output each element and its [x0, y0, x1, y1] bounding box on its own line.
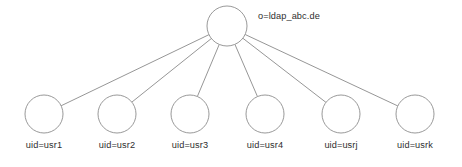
tree-edge [235, 44, 258, 96]
leaf-node-label: uid=usr2 [99, 140, 135, 150]
leaf-node-label: uid=usr4 [247, 140, 283, 150]
leaf-node-circle[interactable] [396, 95, 434, 133]
tree-edge [197, 44, 219, 96]
leaf-node-circle[interactable] [246, 95, 284, 133]
leaf-node-circle[interactable] [25, 95, 63, 133]
ldap-tree-diagram: o=ldap_abc.deuid=usr1uid=usr2uid=usr3uid… [0, 0, 462, 167]
root-node-circle[interactable] [207, 6, 247, 46]
root-node-label: o=ldap_abc.de [258, 11, 320, 21]
leaf-node-label: uid=usr3 [172, 140, 208, 150]
leaf-node-label: uid=usr1 [26, 140, 62, 150]
tree-edge [243, 38, 326, 102]
leaf-node-circle[interactable] [171, 95, 209, 133]
leaf-node-label: uid=usrj [324, 140, 357, 150]
node-layer: o=ldap_abc.deuid=usr1uid=usr2uid=usr3uid… [25, 6, 434, 150]
leaf-node-circle[interactable] [322, 95, 360, 133]
tree-canvas: o=ldap_abc.deuid=usr1uid=usr2uid=usr3uid… [0, 0, 462, 167]
leaf-node-circle[interactable] [98, 95, 136, 133]
leaf-node-label: uid=usrk [397, 140, 433, 150]
